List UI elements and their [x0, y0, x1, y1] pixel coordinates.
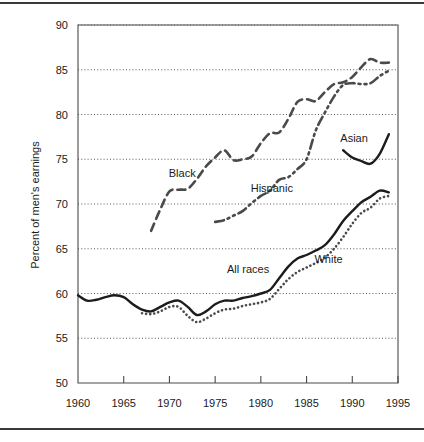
series-label-asian: Asian	[340, 132, 368, 144]
x-tick-label-1980: 1980	[249, 397, 273, 409]
y-tick-label-85: 85	[56, 64, 68, 76]
y-tick-label-50: 50	[56, 377, 68, 389]
y-tick-label-55: 55	[56, 332, 68, 344]
y-tick-label-90: 90	[56, 19, 68, 31]
y-tick-label-60: 60	[56, 288, 68, 300]
data-series-group	[78, 59, 389, 322]
line-chart: 505560657075808590 196019651970197519801…	[0, 0, 424, 442]
y-tick-label-75: 75	[56, 153, 68, 165]
y-tick-label-65: 65	[56, 243, 68, 255]
y-tick-label-80: 80	[56, 109, 68, 121]
y-tick-labels-group: 505560657075808590	[56, 19, 68, 389]
series-label-hispanic: Hispanic	[251, 182, 294, 194]
series-label-white: White	[314, 253, 342, 265]
figure-container: 505560657075808590 196019651970197519801…	[0, 0, 424, 442]
x-tick-label-1965: 1965	[111, 397, 135, 409]
x-tick-label-1990: 1990	[340, 397, 364, 409]
series-line-white	[142, 196, 389, 322]
series-annotations-group: BlackHispanicAsianAll racesWhite	[169, 132, 368, 275]
x-tick-label-1960: 1960	[66, 397, 90, 409]
series-line-hispanic	[215, 71, 389, 222]
series-label-all-races: All races	[227, 263, 270, 275]
x-tick-label-1995: 1995	[386, 397, 410, 409]
y-tick-label-70: 70	[56, 198, 68, 210]
tick-marks-group	[124, 376, 398, 383]
x-tick-labels-group: 19601965197019751980198519901995	[66, 397, 410, 409]
x-tick-label-1970: 1970	[157, 397, 181, 409]
y-axis-title: Percent of men's earnings	[29, 141, 41, 269]
x-tick-label-1985: 1985	[294, 397, 318, 409]
gridlines-group	[78, 25, 398, 338]
series-line-black	[151, 59, 389, 231]
series-label-black: Black	[169, 167, 196, 179]
x-tick-label-1975: 1975	[203, 397, 227, 409]
